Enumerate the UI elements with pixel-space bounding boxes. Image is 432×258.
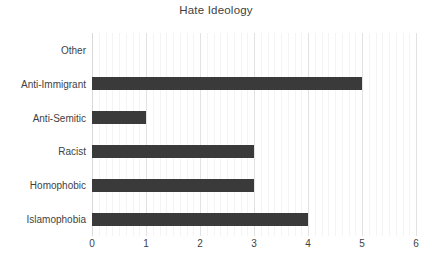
gridline-major (416, 33, 417, 236)
bar-row (92, 202, 416, 236)
bar-row (92, 135, 416, 169)
x-axis-tick-label: 6 (413, 238, 419, 249)
y-axis-category-labels: OtherAnti-ImmigrantAnti-SemiticRacistHom… (0, 33, 86, 236)
bars-layer (92, 33, 416, 236)
bar-row (92, 101, 416, 135)
bar-chart: Hate Ideology OtherAnti-ImmigrantAnti-Se… (0, 0, 432, 258)
chart-title: Hate Ideology (0, 4, 432, 16)
x-axis-tick-label: 5 (359, 238, 365, 249)
y-axis-label: Anti-Immigrant (0, 78, 86, 89)
y-axis-label: Racist (0, 146, 86, 157)
x-axis-tick-label: 2 (197, 238, 203, 249)
bar (92, 111, 146, 124)
bar (92, 213, 308, 226)
plot-area (92, 33, 416, 236)
y-axis-label: Islamophobia (0, 214, 86, 225)
bar (92, 179, 254, 192)
x-axis-tick-labels: 0123456 (92, 238, 416, 256)
bar (92, 145, 254, 158)
x-axis-tick-label: 1 (143, 238, 149, 249)
bar-row (92, 33, 416, 67)
x-axis-tick-label: 3 (251, 238, 257, 249)
y-axis-label: Other (0, 44, 86, 55)
bar-row (92, 67, 416, 101)
y-axis-label: Anti-Semitic (0, 112, 86, 123)
y-axis-label: Homophobic (0, 180, 86, 191)
x-axis-tick-label: 4 (305, 238, 311, 249)
x-axis-tick-label: 0 (89, 238, 95, 249)
bar (92, 77, 362, 90)
bar-row (92, 168, 416, 202)
